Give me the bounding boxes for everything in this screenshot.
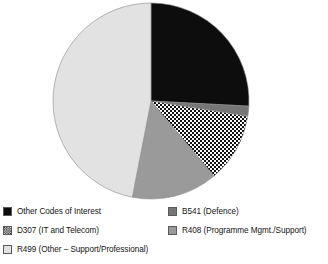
legend-swatch-other-codes-of-interest [3, 207, 12, 216]
legend-swatch-r499-other-support-professional [3, 245, 12, 254]
legend-swatch-b541-defence [168, 207, 177, 216]
pie-slice-0 [151, 3, 249, 106]
legend-item-d307-it-and-telecom: D307 (IT and Telecom) [3, 222, 175, 239]
pie-chart-figure: Other Codes of Interest D307 (IT and Tel… [0, 0, 328, 264]
legend-column-left: Other Codes of Interest D307 (IT and Tel… [3, 203, 175, 260]
pie-slice-group [53, 3, 249, 199]
legend-label-other-codes-of-interest: Other Codes of Interest [17, 207, 101, 217]
chart-legend: Other Codes of Interest D307 (IT and Tel… [0, 203, 328, 264]
pie-chart-svg [0, 0, 328, 205]
legend-label-b541-defence: B541 (Defence) [182, 207, 239, 217]
legend-item-b541-defence: B541 (Defence) [168, 203, 328, 220]
legend-label-r408-programme-mgmt-support: R408 (Programme Mgmt./Support) [182, 226, 307, 236]
legend-label-d307-it-and-telecom: D307 (IT and Telecom) [17, 226, 99, 236]
legend-item-r499-other-support-professional: R499 (Other – Support/Professional) [3, 241, 175, 258]
legend-column-right: B541 (Defence) R408 (Programme Mgmt./Sup… [168, 203, 328, 241]
pie-slice-4 [53, 3, 151, 197]
legend-swatch-r408-programme-mgmt-support [168, 226, 177, 235]
legend-swatch-d307-it-and-telecom [3, 226, 12, 235]
pie-chart-plot-area [0, 0, 328, 205]
legend-label-r499-other-support-professional: R499 (Other – Support/Professional) [17, 245, 148, 255]
legend-item-r408-programme-mgmt-support: R408 (Programme Mgmt./Support) [168, 222, 328, 239]
legend-item-other-codes-of-interest: Other Codes of Interest [3, 203, 175, 220]
